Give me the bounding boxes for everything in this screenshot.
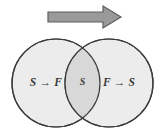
figure-container: S → F S F → S (0, 0, 165, 136)
left-region-label: S → F (30, 76, 62, 88)
right-region-label: F → S (102, 76, 135, 88)
venn-diagram-figure: S → F S F → S (0, 0, 165, 136)
intersection-region-label: S (80, 76, 86, 87)
